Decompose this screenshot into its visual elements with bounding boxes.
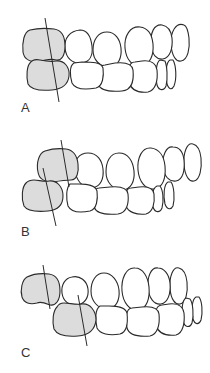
- panel-a: A: [0, 0, 210, 125]
- panel-b: B: [0, 120, 210, 250]
- dental-arch-diagram-a: [0, 0, 210, 125]
- panel-label-c: C: [21, 345, 30, 360]
- panel-label-b: B: [21, 224, 30, 239]
- dental-arch-diagram-c: [0, 245, 210, 373]
- panel-label-a: A: [21, 100, 30, 115]
- dental-arch-diagram-b: [0, 120, 210, 250]
- panel-c: C: [0, 245, 210, 373]
